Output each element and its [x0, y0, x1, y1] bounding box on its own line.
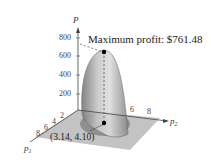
- z-tick-800: 800: [59, 34, 71, 42]
- z-axis-label: P: [73, 16, 79, 25]
- max-profit-annotation: Maximum profit: $761.48: [88, 34, 203, 45]
- max-point-coordinates: (3.14, 4.10): [50, 133, 94, 143]
- profit-surface-figure: P 800 600 400 200 Maximum profit: $761.4…: [0, 0, 211, 167]
- y-axis-arrow: [163, 119, 169, 123]
- max-point: [102, 50, 106, 54]
- z-axis-arrow: [76, 27, 80, 33]
- x-axis-label: p1: [24, 144, 32, 154]
- base-point: [102, 121, 106, 125]
- x-tick-6: 6: [44, 124, 48, 132]
- max-leader: [80, 44, 103, 52]
- y-tick-8: 8: [147, 108, 151, 116]
- surface-plot: [0, 0, 211, 167]
- y-axis-label: p2: [170, 117, 178, 127]
- y-tick-6: 6: [130, 106, 134, 114]
- x-tick-8: 8: [36, 130, 40, 138]
- z-tick-400: 400: [59, 71, 71, 79]
- z-tick-200: 200: [59, 90, 71, 98]
- x-tick-4: 4: [52, 118, 56, 126]
- z-tick-600: 600: [59, 52, 71, 60]
- x-tick-2: 2: [60, 112, 64, 120]
